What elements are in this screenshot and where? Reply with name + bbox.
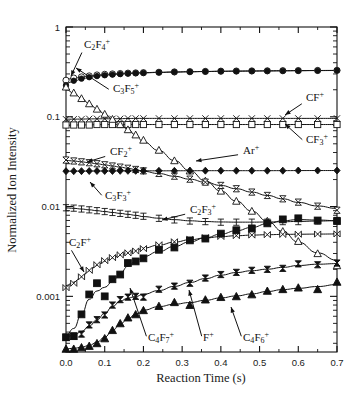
data-point [117, 167, 123, 174]
series-label-c3f3plus: C3 F3 + [105, 188, 132, 203]
data-point [264, 220, 271, 227]
data-point [86, 267, 92, 273]
data-point [71, 280, 77, 286]
data-point [79, 76, 84, 81]
data-point [140, 121, 146, 127]
data-point [279, 285, 287, 292]
y-tick-label: 0.01 [42, 201, 61, 212]
leader-arrowhead [196, 158, 202, 162]
data-point [86, 167, 92, 174]
data-point [102, 258, 108, 264]
data-point [109, 276, 116, 283]
series-label-c3f5plus: C3 F5 + [113, 81, 140, 96]
data-point [102, 167, 108, 174]
data-point [280, 265, 286, 271]
data-point [125, 71, 130, 76]
data-point [71, 78, 76, 83]
data-point [101, 293, 108, 300]
data-point [71, 122, 77, 128]
data-point [132, 258, 139, 265]
data-point [295, 261, 301, 267]
data-point [86, 291, 93, 298]
data-point [218, 167, 224, 174]
data-point [133, 248, 139, 254]
data-point [263, 287, 271, 294]
data-point [101, 110, 108, 117]
data-point [315, 167, 321, 174]
data-point [264, 232, 270, 238]
data-point [63, 122, 69, 128]
data-point [125, 250, 131, 256]
data-point [78, 274, 84, 280]
data-point [117, 297, 123, 303]
superscript-plus: + [319, 90, 324, 99]
leader-arrowhead [231, 307, 235, 313]
data-point [187, 280, 193, 286]
data-point [295, 167, 301, 174]
data-point [218, 271, 224, 277]
y-axis-tick-labels: 10.10.010.001 [36, 22, 60, 302]
data-point [125, 260, 132, 267]
data-point [217, 293, 225, 300]
data-point [94, 167, 100, 174]
x-axis-tick-labels: 0.00.10.20.30.40.50.60.7 [59, 357, 343, 368]
data-point [94, 280, 101, 287]
data-point [217, 230, 224, 237]
data-point [125, 294, 131, 300]
data-point [94, 317, 100, 323]
data-point [171, 121, 177, 127]
x-tick-label: 0.3 [176, 357, 189, 368]
data-point [295, 231, 301, 237]
fit-curve-cfplus [66, 118, 337, 119]
data-point [109, 255, 115, 261]
data-point [108, 326, 116, 333]
data-point [249, 121, 255, 127]
data-point [249, 232, 255, 238]
series-label-arplus: Ar+ [243, 143, 260, 156]
data-point [155, 302, 163, 309]
data-point [315, 68, 320, 73]
data-point [86, 100, 93, 107]
data-point [170, 298, 178, 305]
data-point [218, 69, 223, 74]
data-point [156, 121, 162, 127]
data-point [334, 121, 340, 127]
superscript-plus: + [87, 235, 92, 244]
data-point [63, 157, 69, 163]
superscript-plus: + [255, 143, 260, 152]
fit-line [66, 118, 337, 119]
data-point [117, 252, 123, 258]
data-point [248, 225, 255, 232]
data-point [265, 68, 270, 73]
data-point [118, 71, 123, 76]
data-point [334, 260, 340, 266]
data-point [102, 73, 107, 78]
x-tick-label: 0.1 [98, 357, 111, 368]
data-point [78, 168, 84, 175]
data-point [78, 95, 85, 102]
data-point [233, 121, 239, 127]
y-tick-label: 0.001 [36, 291, 60, 302]
x-tick-label: 0.4 [214, 357, 227, 368]
data-point [156, 286, 162, 292]
data-point [201, 296, 209, 303]
y-tick-label: 1 [55, 22, 60, 33]
data-point [280, 167, 286, 174]
leader-arrowhead [188, 290, 192, 296]
superscript-plus: + [106, 37, 111, 46]
series-c3f5plus [63, 68, 339, 88]
data-point [296, 68, 301, 73]
data-point [264, 121, 270, 127]
x-tick-label: 0.0 [59, 357, 72, 368]
x-tick-label: 0.5 [253, 357, 266, 368]
superscript-plus: + [265, 330, 270, 339]
data-point [249, 167, 255, 174]
data-point [133, 70, 138, 75]
data-point [187, 69, 192, 74]
data-point [334, 218, 341, 225]
data-point [172, 69, 177, 74]
x-tick-label: 0.2 [137, 357, 150, 368]
data-point [140, 255, 147, 262]
superscript-plus: + [170, 330, 175, 339]
superscript-plus: + [128, 144, 133, 153]
